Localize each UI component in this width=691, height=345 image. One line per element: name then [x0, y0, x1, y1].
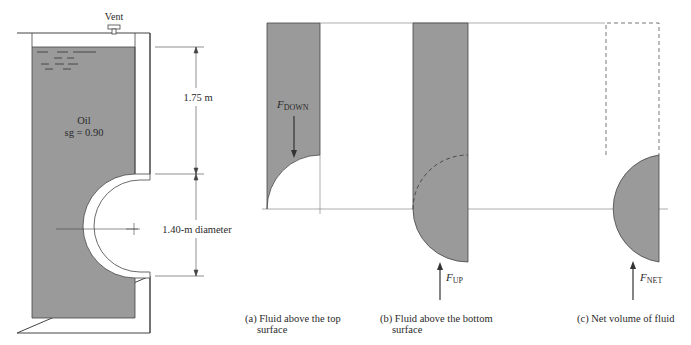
force-net-arrowhead	[630, 261, 636, 269]
panel-b-fluid-above-bottom: FUP	[413, 23, 468, 300]
fluid-name: Oil	[77, 115, 91, 126]
tank: Vent Oil sg = 0.90	[17, 11, 150, 333]
fluid-above-bottom-surface	[413, 23, 468, 262]
dimension-depth	[155, 47, 204, 276]
force-up-label: FUP	[445, 271, 464, 285]
fluid-sg: sg = 0.90	[65, 127, 104, 138]
net-fluid-volume	[613, 155, 659, 262]
hemispherical-dome-diagram: Vent Oil sg = 0.90 1.75 m 1.40-m diamete…	[0, 0, 691, 345]
panel-c-net-volume: FNET	[606, 23, 662, 300]
panel-a-fluid-above-top: FDOWN	[267, 23, 320, 214]
caption-c: (c) Net volume of fluid	[577, 313, 674, 324]
depth-label: 1.75 m	[183, 92, 212, 103]
force-up-arrowhead	[437, 262, 443, 270]
caption-b-line1: (b) Fluid above the bottom	[380, 313, 493, 324]
vent-label: Vent	[105, 11, 124, 22]
dashed-column-outline	[606, 23, 659, 155]
caption-b-line2: surface	[380, 324, 493, 335]
caption-a-line2: surface	[245, 324, 341, 335]
caption-a-line1: (a) Fluid above the top	[245, 313, 341, 324]
caption-b: (b) Fluid above the bottom surface	[380, 313, 493, 335]
diameter-label: 1.40-m diameter	[162, 224, 232, 235]
caption-a: (a) Fluid above the top surface	[245, 313, 341, 335]
caption-c-line1: (c) Net volume of fluid	[577, 313, 674, 324]
force-net-label: FNET	[639, 271, 662, 285]
